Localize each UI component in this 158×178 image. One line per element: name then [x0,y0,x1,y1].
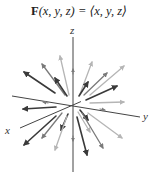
z-axis-label: z [69,24,75,36]
x-axis-negative [73,102,81,105]
field-arrow [42,64,65,95]
x-axis-label: x [4,124,10,136]
field-arrow [82,113,103,148]
y-axis [12,96,140,117]
field-arrow [55,116,67,150]
field-arrow [88,113,122,138]
y-axis-label: y [142,110,148,122]
axis-arrow-mark [100,109,105,110]
vector-field-plot: z y x [0,0,158,178]
field-arrow [24,116,56,145]
field-arrow [90,102,124,103]
field-arrow [77,117,87,155]
field-arrow [23,107,56,109]
coordinate-axes: z y x [4,24,148,172]
